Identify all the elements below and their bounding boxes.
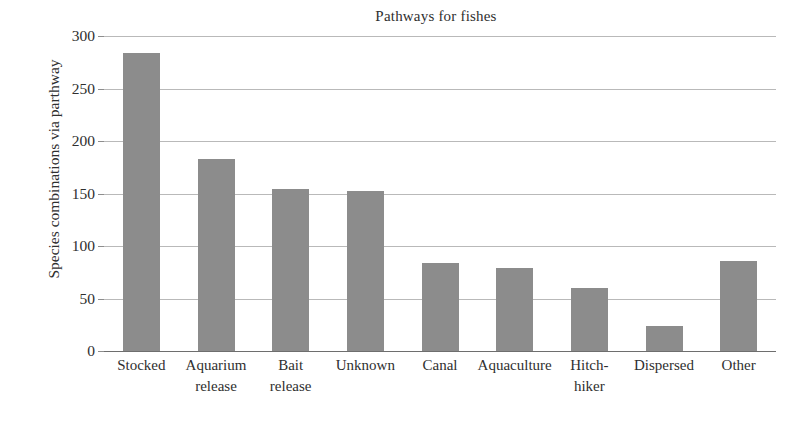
bar-stocked[interactable] [123, 53, 160, 351]
bar-hitch-hiker[interactable] [571, 288, 608, 351]
bar-aquaculture[interactable] [496, 268, 533, 351]
y-tickmark-0 [98, 351, 104, 352]
y-tick-label-100: 100 [72, 238, 95, 254]
axis-baseline [104, 351, 776, 352]
y-axis-title: Species combinations via parthway [45, 19, 63, 319]
bar-unknown[interactable] [347, 191, 384, 351]
chart-title: Pathways for fishes [0, 8, 792, 25]
y-tick-label-150: 150 [72, 186, 95, 202]
x-label-line: Stocked [117, 357, 165, 373]
y-tick-label-50: 50 [80, 291, 96, 307]
y-tick-label-200: 200 [72, 133, 95, 149]
x-label-line: Aquarium [186, 357, 247, 373]
x-label-line: Unknown [336, 357, 395, 373]
x-tick-label-other: Other [694, 355, 783, 376]
bar-dispersed[interactable] [646, 326, 683, 351]
x-label-line: Hitch- [570, 357, 608, 373]
bar-chart-figure: Pathways for fishes Species combinations… [0, 0, 792, 427]
x-label-line: release [246, 376, 335, 397]
x-label-line: hiker [545, 376, 634, 397]
bar-series [104, 36, 776, 351]
y-tick-label-0: 0 [87, 343, 95, 359]
bar-other[interactable] [720, 261, 757, 351]
x-label-line: Other [722, 357, 756, 373]
bar-aquarium-release[interactable] [198, 159, 235, 351]
x-label-line: Aquaculture [478, 357, 552, 373]
x-label-line: Dispersed [634, 357, 694, 373]
bar-canal[interactable] [422, 263, 459, 351]
x-axis-labels: StockedAquariumreleaseBaitreleaseUnknown… [104, 355, 776, 425]
x-label-line: Canal [422, 357, 457, 373]
x-label-line: Bait [278, 357, 303, 373]
bar-bait-release[interactable] [272, 189, 309, 351]
y-tick-label-300: 300 [72, 28, 95, 44]
plot-area: 050100150200250300 [104, 36, 776, 351]
y-tick-label-250: 250 [72, 81, 95, 97]
